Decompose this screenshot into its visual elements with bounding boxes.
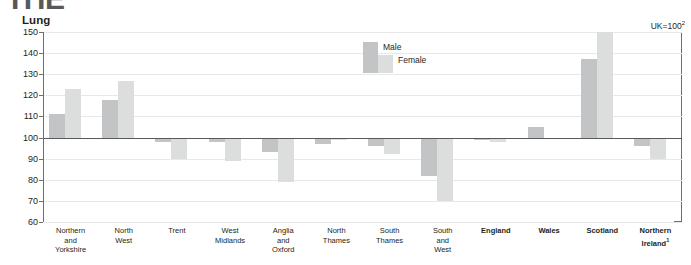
legend-label-female: Female: [398, 55, 426, 65]
y-tick-label-60: 60: [0, 217, 38, 227]
bar-group: [523, 32, 576, 222]
gridline-60: [44, 222, 682, 223]
x-label-line: Midlands: [204, 236, 257, 246]
x-label-line: and: [416, 236, 469, 246]
y-tick-mark-60: [39, 222, 43, 223]
x-axis-label: NorthernandYorkshire: [44, 226, 97, 255]
x-axis-label: SouthandWest: [416, 226, 469, 255]
bar-female: [650, 138, 666, 159]
bar-female: [65, 89, 81, 138]
x-label-line: Trent: [150, 226, 203, 236]
bar-female: [171, 138, 187, 159]
y-tick-mark-140: [39, 53, 43, 54]
x-label-line: North: [97, 226, 150, 236]
x-axis-label: NorthThames: [310, 226, 363, 245]
x-label-line: Northern: [44, 226, 97, 236]
bar-female: [597, 32, 613, 138]
bar-male: [581, 59, 597, 137]
y-tick-mark-100: [39, 138, 43, 139]
y-tick-label-90: 90: [0, 154, 38, 164]
bar-male: [102, 100, 118, 138]
bar-group: [257, 32, 310, 222]
x-label-line: Thames: [310, 236, 363, 246]
chart-page: THE Lung UK=1002 60708090100110120130140…: [0, 0, 691, 265]
bar-male: [421, 138, 437, 176]
x-label-line: and: [44, 236, 97, 246]
bar-male: [528, 127, 544, 138]
bar-group: [629, 32, 682, 222]
bar-female: [384, 138, 400, 155]
y-tick-label-70: 70: [0, 196, 38, 206]
x-axis-labels: NorthernandYorkshireNorthWestTrentWestMi…: [44, 226, 682, 265]
bar-group: [44, 32, 97, 222]
y-tick-mark-150: [39, 32, 43, 33]
x-label-line: West: [204, 226, 257, 236]
reference-line-100: [44, 138, 682, 139]
bar-female: [278, 138, 294, 182]
x-axis-label: SouthThames: [363, 226, 416, 245]
legend-swatch-female: [378, 55, 393, 73]
bar-group: [97, 32, 150, 222]
x-label-line: West: [97, 236, 150, 246]
y-tick-label-100: 100: [0, 133, 38, 143]
x-axis-label: NorthernIreland1: [629, 226, 682, 248]
bar-male: [49, 114, 65, 137]
y-tick-label-110: 110: [0, 111, 38, 121]
bar-group: [150, 32, 203, 222]
bar-male: [634, 138, 650, 146]
x-label-line: Thames: [363, 236, 416, 246]
y-tick-label-130: 130: [0, 69, 38, 79]
y-tick-mark-120: [39, 95, 43, 96]
y-tick-mark-130: [39, 74, 43, 75]
x-axis-label: WestMidlands: [204, 226, 257, 245]
bar-group: [469, 32, 522, 222]
x-label-line: South: [363, 226, 416, 236]
x-axis-label: Trent: [150, 226, 203, 236]
page-title: Lung: [22, 14, 51, 26]
x-label-line: West: [416, 245, 469, 255]
x-axis-label: England: [469, 226, 522, 236]
x-axis-label: Scotland: [576, 226, 629, 236]
y-tick-mark-70: [39, 201, 43, 202]
legend-label-male: Male: [383, 42, 401, 52]
x-label-line: England: [469, 226, 522, 236]
y-tick-mark-80: [39, 180, 43, 181]
y-tick-mark-90: [39, 159, 43, 160]
bar-female: [437, 138, 453, 201]
x-label-line: Scotland: [576, 226, 629, 236]
uk-index-note-text: UK=100: [651, 21, 682, 31]
x-axis-label: AngliaandOxford: [257, 226, 310, 255]
x-label-line: North: [310, 226, 363, 236]
legend: Male Female: [363, 42, 473, 76]
y-tick-label-80: 80: [0, 175, 38, 185]
y-tick-mark-110: [39, 116, 43, 117]
bar-female: [118, 81, 134, 138]
x-label-line: Yorkshire: [44, 245, 97, 255]
x-axis-label: Wales: [523, 226, 576, 236]
x-axis-label: NorthWest: [97, 226, 150, 245]
x-label-footnote-marker: 1: [666, 237, 669, 243]
y-tick-label-150: 150: [0, 27, 38, 37]
x-label-line: Ireland1: [629, 236, 682, 248]
x-label-line: Anglia: [257, 226, 310, 236]
uk-index-note: UK=1002: [651, 20, 685, 31]
bar-group: [576, 32, 629, 222]
y-tick-label-120: 120: [0, 90, 38, 100]
x-label-line: South: [416, 226, 469, 236]
x-label-line: Oxford: [257, 245, 310, 255]
legend-swatch-male: [363, 42, 378, 73]
bar-male: [262, 138, 278, 153]
bar-female: [225, 138, 241, 161]
bar-group: [204, 32, 257, 222]
cut-off-page-title: THE: [6, 0, 65, 14]
x-label-line: Wales: [523, 226, 576, 236]
bar-group: [310, 32, 363, 222]
x-label-line: Northern: [629, 226, 682, 236]
uk-index-note-superscript: 2: [682, 20, 685, 26]
y-tick-label-140: 140: [0, 48, 38, 58]
bar-male: [368, 138, 384, 146]
x-label-line: and: [257, 236, 310, 246]
